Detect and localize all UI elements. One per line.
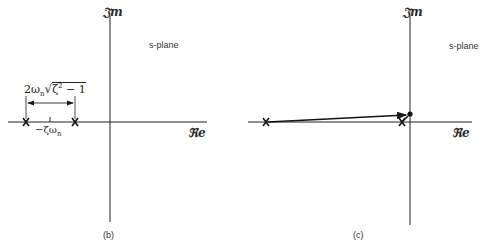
plane-label: s-plane — [449, 41, 479, 51]
spacing-label: 2ωn√ζ2 − 1 — [24, 82, 86, 98]
long-vector — [268, 115, 406, 122]
center-label: −ζωn — [35, 124, 61, 138]
imag-axis-label: 𝔍m — [103, 5, 123, 19]
caption-b: (b) — [103, 230, 114, 240]
caption-c: (c) — [353, 230, 364, 240]
real-axis-label: ℜe — [188, 126, 206, 140]
test-point — [407, 111, 412, 116]
panel-c — [248, 16, 472, 225]
plane-label: s-plane — [149, 40, 179, 50]
real-axis-label: ℜe — [452, 126, 470, 140]
imag-axis-label: 𝔍m — [403, 5, 423, 19]
s-plane-diagrams — [0, 0, 484, 246]
